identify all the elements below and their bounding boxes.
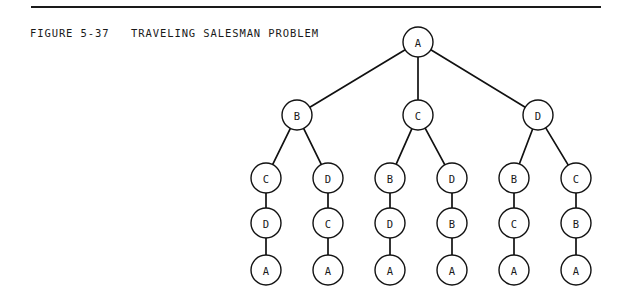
tree-node-label: A <box>415 37 422 49</box>
tree-node-label: B <box>511 173 517 185</box>
tree-node[interactable]: A <box>561 255 591 285</box>
tree-node[interactable]: C <box>313 208 343 238</box>
tree-node-layer: ABCDCDBDBCDCDBCBAAAAAA <box>251 27 591 285</box>
tree-node[interactable]: D <box>523 100 553 130</box>
tree-edge <box>431 50 525 107</box>
tree-node[interactable]: C <box>499 208 529 238</box>
tree-node-label: A <box>263 265 270 277</box>
tree-node[interactable]: B <box>282 100 312 130</box>
tree-node[interactable]: A <box>251 255 281 285</box>
tree-node-label: A <box>449 265 456 277</box>
tree-node-label: C <box>415 110 421 122</box>
tree-node-label: C <box>263 173 269 185</box>
tree-edge <box>425 128 445 165</box>
tree-edge <box>396 129 412 165</box>
tree-node-label: B <box>387 173 393 185</box>
tree-node-label: B <box>294 110 300 122</box>
tree-node[interactable]: D <box>375 208 405 238</box>
tree-edge <box>273 128 291 164</box>
tree-node-label: B <box>449 218 455 230</box>
tree-node[interactable]: A <box>437 255 467 285</box>
tree-node[interactable]: B <box>437 208 467 238</box>
tree-node[interactable]: A <box>499 255 529 285</box>
tree-node-label: D <box>387 218 393 230</box>
tree-node[interactable]: D <box>251 208 281 238</box>
figure-page: FIGURE 5-37 TRAVELING SALESMAN PROBLEM A… <box>0 0 626 299</box>
tree-node[interactable]: D <box>313 163 343 193</box>
tree-node[interactable]: C <box>403 100 433 130</box>
tree-node-label: A <box>325 265 332 277</box>
tree-edge <box>310 50 405 108</box>
tree-node[interactable]: B <box>375 163 405 193</box>
tree-edge <box>546 128 569 165</box>
tree-node-label: C <box>325 218 331 230</box>
tree-node[interactable]: B <box>499 163 529 193</box>
tree-node[interactable]: B <box>561 208 591 238</box>
tree-node-label: A <box>387 265 394 277</box>
tree-node[interactable]: A <box>375 255 405 285</box>
tree-node[interactable]: D <box>437 163 467 193</box>
tree-node[interactable]: A <box>403 27 433 57</box>
tree-node-label: A <box>573 265 580 277</box>
tree-diagram: ABCDCDBDBCDCDBCBAAAAAA <box>0 0 626 299</box>
tree-node-label: D <box>535 110 541 122</box>
tree-node[interactable]: C <box>251 163 281 193</box>
tree-node-label: C <box>511 218 517 230</box>
tree-node[interactable]: A <box>313 255 343 285</box>
tree-node-label: D <box>263 218 269 230</box>
tree-node-label: D <box>449 173 455 185</box>
tree-node-label: C <box>573 173 579 185</box>
tree-edge <box>304 128 322 164</box>
tree-node[interactable]: C <box>561 163 591 193</box>
tree-node-label: A <box>511 265 518 277</box>
tree-edge <box>519 129 532 164</box>
tree-node-label: B <box>573 218 579 230</box>
tree-node-label: D <box>325 173 331 185</box>
